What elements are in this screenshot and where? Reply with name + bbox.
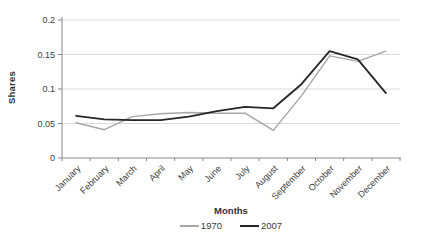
y-tick-label: 0.15: [37, 50, 55, 60]
legend-swatch-1970: [180, 225, 199, 227]
y-tick-label: 0: [50, 153, 55, 163]
legend-label-1970: 1970: [201, 220, 222, 231]
y-tick-label: 0.05: [37, 119, 55, 129]
legend-label-2007: 2007: [261, 220, 282, 231]
x-tick-label: March: [114, 163, 139, 188]
legend-item-2007: 2007: [240, 220, 282, 231]
series-line-2007: [76, 51, 386, 120]
y-tick-label: 0.2: [42, 15, 55, 25]
y-axis-title: Shares: [6, 53, 17, 123]
series-line-1970: [76, 51, 386, 130]
x-tick-label: April: [147, 163, 167, 183]
legend: 1970 2007: [62, 220, 400, 231]
legend-item-1970: 1970: [180, 220, 222, 231]
x-tick-label: July: [233, 163, 252, 182]
line-chart: 00.050.10.150.2JanuaryFebruaryMarchApril…: [0, 0, 421, 250]
y-tick-label: 0.1: [42, 84, 55, 94]
x-axis-title: Months: [62, 205, 400, 216]
legend-swatch-2007: [240, 225, 259, 227]
x-tick-label: February: [78, 163, 111, 196]
x-tick-label: June: [202, 163, 223, 184]
x-tick-label: August: [253, 163, 280, 190]
x-tick-label: May: [176, 163, 195, 182]
